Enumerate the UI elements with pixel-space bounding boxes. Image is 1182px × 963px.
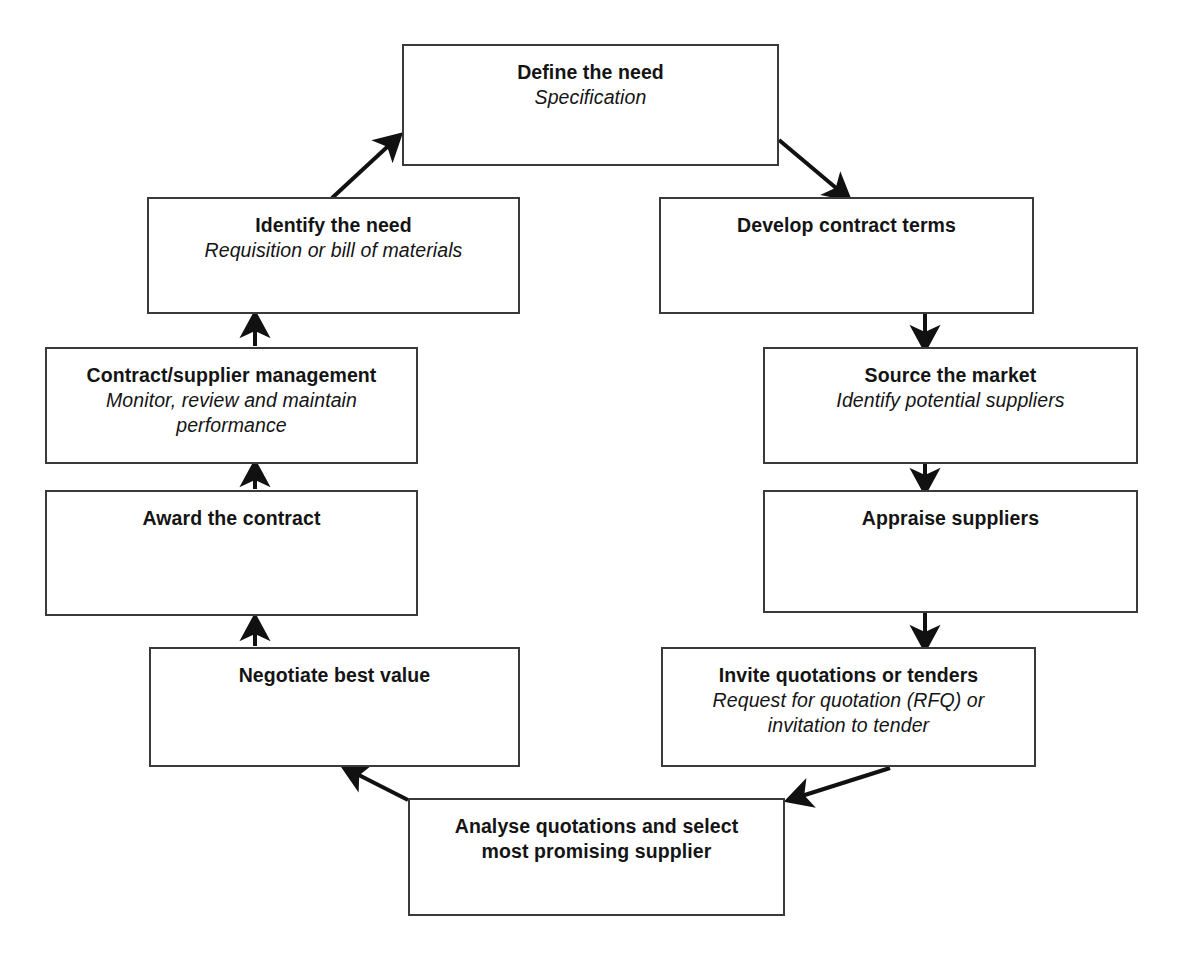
node-subtitle: Request for quotation (RFQ) or invitatio… [663, 688, 1034, 738]
node-title: Identify the need [149, 213, 518, 238]
node-analyse-quotations[interactable]: Analyse quotations and select most promi… [408, 798, 785, 916]
connector-analyse-to-negotiate [345, 768, 408, 800]
node-title: Develop contract terms [661, 213, 1032, 238]
node-title: Define the need [404, 60, 777, 85]
node-title: Appraise suppliers [765, 506, 1136, 531]
node-subtitle: Requisition or bill of materials [149, 238, 518, 263]
node-subtitle: Monitor, review and maintain performance [47, 388, 416, 438]
procurement-cycle-diagram: Define the need Specification Identify t… [0, 0, 1182, 963]
node-identify-the-need[interactable]: Identify the need Requisition or bill of… [147, 197, 520, 314]
node-title: Invite quotations or tenders [663, 663, 1034, 688]
node-invite-quotations-or-tenders[interactable]: Invite quotations or tenders Request for… [661, 647, 1036, 767]
node-title: Contract/supplier management [47, 363, 416, 388]
node-negotiate-best-value[interactable]: Negotiate best value [149, 647, 520, 767]
node-subtitle: Identify potential suppliers [765, 388, 1136, 413]
node-title: Negotiate best value [151, 663, 518, 688]
connector-define-to-develop [779, 140, 848, 198]
node-contract-supplier-management[interactable]: Contract/supplier management Monitor, re… [45, 347, 418, 464]
node-develop-contract-terms[interactable]: Develop contract terms [659, 197, 1034, 314]
node-source-the-market[interactable]: Source the market Identify potential sup… [763, 347, 1138, 464]
node-title: Award the contract [47, 506, 416, 531]
node-title: Source the market [765, 363, 1136, 388]
node-award-the-contract[interactable]: Award the contract [45, 490, 418, 616]
node-subtitle: Specification [404, 85, 777, 110]
node-appraise-suppliers[interactable]: Appraise suppliers [763, 490, 1138, 613]
connector-invite-to-analyse [789, 768, 890, 800]
connector-identify-to-define [332, 136, 399, 198]
node-define-the-need[interactable]: Define the need Specification [402, 44, 779, 166]
node-title: Analyse quotations and select most promi… [432, 814, 761, 864]
